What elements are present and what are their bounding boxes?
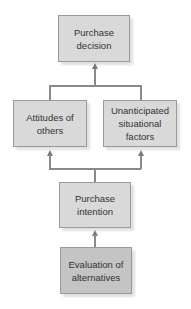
connector-left-top bbox=[49, 85, 51, 100]
node-purchase-intention: Purchase intention bbox=[59, 182, 131, 228]
connector-right-top bbox=[140, 85, 142, 100]
node-label: Purchase intention bbox=[60, 192, 130, 218]
node-label: Unanticipated situational factors bbox=[104, 104, 176, 143]
connector-vertical-top bbox=[94, 68, 96, 85]
connector-vertical-bottom bbox=[94, 235, 96, 247]
node-label: Attitudes of others bbox=[14, 111, 86, 137]
node-attitudes-of-others: Attitudes of others bbox=[13, 100, 87, 147]
node-purchase-decision: Purchase decision bbox=[58, 15, 130, 62]
node-unanticipated-situational-factors: Unanticipated situational factors bbox=[103, 100, 177, 147]
node-label: Purchase decision bbox=[59, 26, 129, 52]
connector-horizontal-top bbox=[49, 85, 141, 87]
connector-vertical-middle bbox=[94, 168, 96, 182]
node-label: Evaluation of alternatives bbox=[61, 258, 131, 284]
node-evaluation-of-alternatives: Evaluation of alternatives bbox=[60, 247, 132, 294]
connector-left-bottom bbox=[49, 155, 51, 169]
connector-right-bottom bbox=[140, 155, 142, 169]
arrow-up-icon bbox=[92, 63, 98, 69]
